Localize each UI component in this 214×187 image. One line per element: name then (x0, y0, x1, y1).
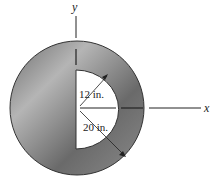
diagram-canvas: y x 12 in. 20 in. (0, 0, 214, 187)
y-axis-label: y (71, 0, 78, 14)
inner-radius-label: 12 in. (79, 88, 104, 100)
outer-radius-label: 20 in. (83, 121, 108, 133)
x-axis-label: x (203, 101, 210, 115)
